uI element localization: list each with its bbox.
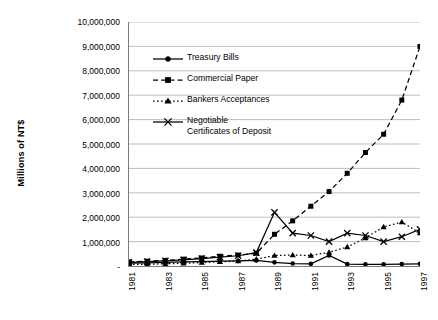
- legend-item-bankers-acceptances: Bankers Acceptances: [151, 94, 316, 115]
- x-tick-label: 1985: [201, 272, 210, 291]
- x-tick-label: 1997: [420, 272, 429, 291]
- legend-marker-circle-icon: [151, 53, 185, 65]
- legend-marker-cross-icon: [151, 116, 185, 128]
- chart-container: Millions of NT$ 10,000,0009,000,0008,000…: [0, 0, 438, 320]
- y-tick-label: 9,000,000: [12, 42, 120, 51]
- legend-marker-square-icon: [151, 74, 185, 86]
- legend-item-negotiable-certificates-of-deposit: Negotiable Certificates of Deposit: [151, 115, 316, 141]
- x-tick-label: 1983: [165, 272, 174, 291]
- x-tick-label: 1991: [311, 272, 320, 291]
- y-tick-label: 8,000,000: [12, 67, 120, 76]
- x-tick-label: 1981: [128, 272, 137, 291]
- y-tick-label: 1,000,000: [12, 238, 120, 247]
- legend-label: Treasury Bills: [185, 52, 239, 63]
- chart-legend: Treasury BillsCommercial PaperBankers Ac…: [151, 52, 316, 141]
- legend-marker-triangle-icon: [151, 95, 185, 107]
- legend-item-commercial-paper: Commercial Paper: [151, 73, 316, 94]
- y-tick-label: 5,000,000: [12, 140, 120, 149]
- x-tick-label: 1995: [384, 272, 393, 291]
- x-tick-label: 1993: [347, 272, 356, 291]
- y-axis-tick-labels: 10,000,0009,000,0008,000,0007,000,0006,0…: [12, 0, 120, 320]
- series-bankers-acceptances: [129, 219, 420, 266]
- y-tick-label: 4,000,000: [12, 165, 120, 174]
- y-tick-label: 7,000,000: [12, 91, 120, 100]
- y-tick-label: 6,000,000: [12, 116, 120, 125]
- legend-label: Bankers Acceptances: [185, 94, 270, 105]
- y-tick-label: -: [12, 263, 120, 272]
- x-tick-label: 1987: [238, 272, 247, 291]
- legend-label: Commercial Paper: [185, 73, 258, 84]
- y-tick-label: 2,000,000: [12, 214, 120, 223]
- y-tick-label: 10,000,000: [12, 18, 120, 27]
- y-tick-label: 3,000,000: [12, 189, 120, 198]
- x-tick-label: 1989: [274, 272, 283, 291]
- legend-item-treasury-bills: Treasury Bills: [151, 52, 316, 73]
- legend-label: Negotiable Certificates of Deposit: [185, 115, 271, 136]
- x-axis-tick-labels: 198119831985198719891991199319951997: [128, 268, 420, 320]
